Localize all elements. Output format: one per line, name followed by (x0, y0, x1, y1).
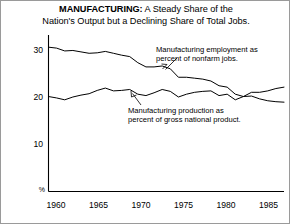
y-tick-label-20: 20 (33, 92, 43, 102)
x-tick-label-1975: 1975 (174, 200, 193, 210)
x-tick-label-1980: 1980 (216, 200, 235, 210)
annotation-production-line2: percent of gross national product. (128, 115, 241, 124)
x-tick-label-1985: 1985 (259, 200, 278, 210)
annotation-employment: Manufacturing employment as percent of n… (156, 45, 258, 63)
annotation-employment-line1: Manufacturing employment as (156, 45, 258, 54)
series-line-production (49, 87, 285, 100)
leader-line-production (133, 94, 142, 106)
x-tick-label-1960: 1960 (46, 200, 65, 210)
y-tick-label-30: 30 (33, 45, 43, 55)
x-tick-label-1965: 1965 (89, 200, 108, 210)
y-tick-label-10: 10 (33, 139, 43, 149)
annotation-production-line1: Manufacturing production as (128, 106, 241, 115)
x-tick-label-1970: 1970 (131, 200, 150, 210)
chart-figure: MANUFACTURING: A Steady Share of the Nat… (0, 0, 290, 224)
annotation-employment-line2: percent of nonfarm jobs. (156, 54, 258, 63)
y-axis-unit-label: % (39, 186, 45, 193)
annotation-production: Manufacturing production as percent of g… (128, 106, 241, 124)
